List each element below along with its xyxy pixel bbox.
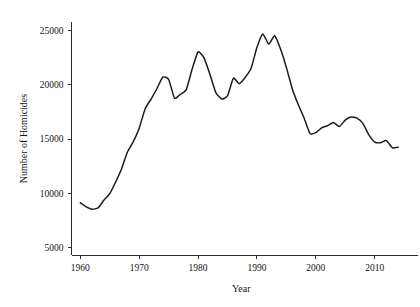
y-tick-label: 15000 — [40, 134, 64, 144]
y-tick-label: 25000 — [40, 26, 64, 36]
homicides-series-line — [80, 34, 398, 209]
x-tick-label: 2000 — [306, 263, 325, 273]
chart-canvas: 500010000150002000025000 196019701980199… — [0, 0, 420, 307]
y-axis-tick-group: 500010000150002000025000 — [40, 26, 72, 253]
x-tick-label: 1990 — [247, 263, 266, 273]
x-tick-label: 1970 — [130, 263, 149, 273]
x-axis-title: Year — [232, 283, 251, 294]
x-axis-tick-group: 196019701980199020002010 — [71, 255, 385, 273]
y-tick-label: 5000 — [45, 243, 64, 253]
y-axis-title: Number of Homicides — [18, 94, 29, 184]
x-tick-label: 2010 — [365, 263, 384, 273]
x-tick-label: 1980 — [189, 263, 208, 273]
y-tick-label: 10000 — [40, 189, 64, 199]
x-tick-label: 1960 — [71, 263, 90, 273]
y-tick-label: 20000 — [40, 80, 64, 90]
homicides-line-chart: 500010000150002000025000 196019701980199… — [0, 0, 420, 307]
